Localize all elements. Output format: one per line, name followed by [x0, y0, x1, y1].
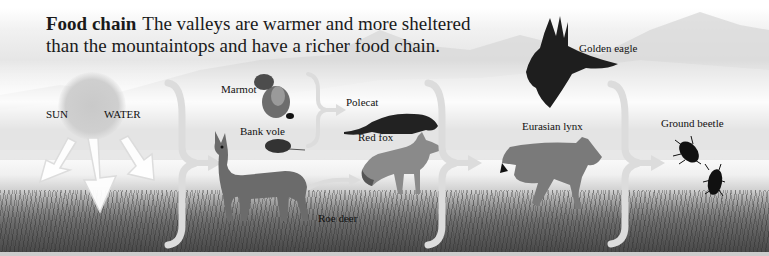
- label-sun: SUN: [46, 108, 68, 121]
- figure-caption: Food chainThe valleys are warmer and mor…: [46, 13, 470, 57]
- label-eurasian-lynx: Eurasian lynx: [522, 120, 583, 133]
- marmot-image: [250, 70, 298, 120]
- roe-deer-image: [205, 125, 315, 225]
- sun-rays-arrows-icon: [20, 130, 170, 240]
- label-water: WATER: [104, 108, 141, 121]
- label-golden-eagle: Golden eagle: [579, 42, 637, 55]
- arrow-deer-to-fox-icon: [305, 168, 365, 192]
- food-chain-figure: Food chainThe valleys are warmer and mor…: [0, 0, 769, 256]
- eurasian-lynx-image: [498, 135, 608, 215]
- ground-beetle-image: [665, 130, 740, 205]
- caption-line-2: than the mountaintops and have a richer …: [46, 35, 470, 57]
- label-ground-beetle: Ground beetle: [661, 117, 724, 130]
- label-roe-deer: Roe deer: [318, 212, 357, 225]
- brace-arrow-3-icon: [420, 75, 490, 250]
- caption-line-1: The valleys are warmer and more sheltere…: [142, 13, 470, 34]
- caption-heading: Food chain: [46, 13, 136, 34]
- brace-arrow-4-icon: [603, 80, 673, 250]
- label-marmot: Marmot: [221, 83, 256, 96]
- bottom-border: [0, 252, 769, 256]
